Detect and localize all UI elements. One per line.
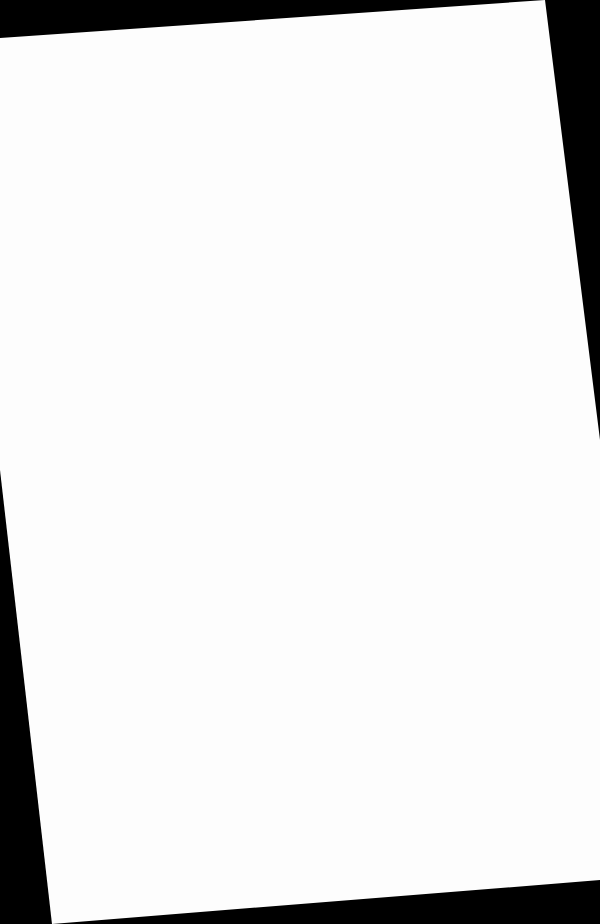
blank-scanned-page xyxy=(0,0,600,924)
bleed-through-text xyxy=(20,0,542,48)
